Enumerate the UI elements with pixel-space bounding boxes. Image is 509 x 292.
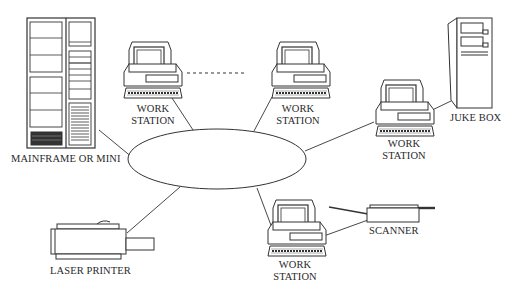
network-hub-ellipse (128, 129, 306, 189)
label-line2: STATION (128, 115, 178, 127)
workstation-label: WORK STATION (273, 103, 323, 127)
jukebox-icon (448, 18, 492, 108)
label-line2: STATION (379, 150, 429, 162)
laser-printer-label: LASER PRINTER (50, 265, 131, 277)
workstation-icon (124, 42, 182, 98)
network-diagram (0, 0, 509, 292)
workstation-icon (268, 200, 326, 256)
label-line1: WORK (379, 138, 429, 150)
mainframe-label: MAINFRAME OR MINI (11, 153, 121, 165)
laser-printer-icon (51, 221, 154, 259)
label-line1: WORK (128, 103, 178, 115)
jukebox-label: JUKE BOX (450, 112, 501, 124)
label-line2: STATION (270, 271, 320, 283)
label-line2: STATION (273, 115, 323, 127)
workstation-label: WORK STATION (270, 259, 320, 283)
workstation-icon (376, 80, 434, 136)
label-line1: WORK (273, 103, 323, 115)
workstation-icon (272, 42, 330, 98)
scanner-label: SCANNER (369, 225, 419, 237)
workstation-label: WORK STATION (379, 138, 429, 162)
workstation-label: WORK STATION (128, 103, 178, 127)
scanner-icon (367, 205, 435, 222)
label-line1: WORK (270, 259, 320, 271)
mainframe-icon (27, 18, 95, 148)
